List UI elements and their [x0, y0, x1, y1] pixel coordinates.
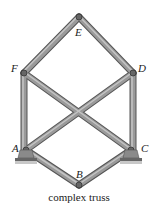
joint-label-B: B [76, 168, 83, 180]
member-AB [26, 150, 79, 185]
member-EF [24, 17, 79, 73]
members [23, 16, 133, 185]
joint-label-F: F [11, 62, 18, 74]
member-CB [79, 150, 131, 185]
joint-label-D: D [138, 62, 146, 74]
joint-label-C: C [141, 142, 148, 154]
pin-B [76, 182, 82, 188]
pin-D [130, 70, 136, 76]
joint-label-A: A [12, 142, 19, 154]
pin-F [21, 70, 27, 76]
figure-caption: complex truss [0, 191, 158, 203]
pin-E [76, 14, 82, 20]
joint-label-E: E [75, 26, 82, 38]
